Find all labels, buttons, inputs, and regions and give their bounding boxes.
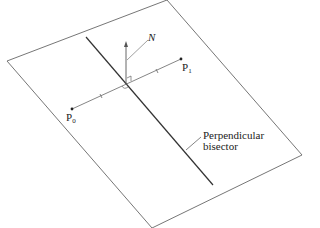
- p0-label-sub: 0: [72, 117, 76, 125]
- p1-label-sub: 1: [188, 67, 192, 75]
- segment-p0-p1: [72, 59, 181, 109]
- bisector-label-leader: [186, 137, 201, 150]
- point-p1: [180, 58, 183, 61]
- normal-label-leader: [127, 40, 148, 60]
- p1-label: P1: [182, 62, 192, 77]
- bisector-label-line2: bisector: [203, 141, 238, 152]
- right-angle-marker-icon: [127, 76, 131, 81]
- perpendicular-bisector-line: [86, 37, 213, 185]
- normal-label: N: [148, 32, 155, 43]
- right-angle-arc-icon: [122, 86, 128, 88]
- normal-arrowhead-icon: [124, 41, 128, 47]
- point-p0: [71, 108, 74, 111]
- p0-label: P0: [66, 112, 76, 127]
